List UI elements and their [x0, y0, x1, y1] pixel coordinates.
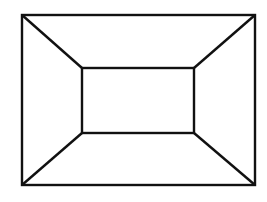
edge-bottom-right [194, 133, 255, 185]
edge-top-left [22, 15, 82, 68]
edge-bottom-left [22, 133, 82, 185]
inner-rectangle [82, 68, 194, 133]
frustum-diagram [0, 0, 267, 202]
outer-rectangle [22, 15, 255, 185]
edge-top-right [194, 15, 255, 68]
